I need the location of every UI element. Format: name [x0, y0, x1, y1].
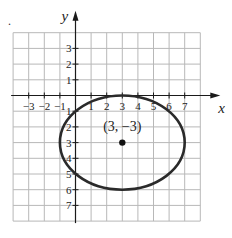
center-point-label: (3, −3): [103, 119, 142, 135]
y-tick-label: 6: [66, 184, 72, 196]
y-tick-label: 3: [66, 42, 72, 54]
annotations: (3, −3): [103, 119, 142, 146]
x-tick-label: −3: [23, 100, 35, 112]
coordinate-plane: xy −3−2−112345671231234567 (3, −3): [0, 0, 232, 238]
y-tick-label: 2: [66, 58, 72, 70]
y-tick-label: 3: [66, 137, 72, 149]
x-tick-label: 4: [135, 100, 141, 112]
y-tick-label: 1: [66, 74, 72, 86]
y-tick-label: 7: [66, 199, 72, 211]
x-axis-label: x: [217, 100, 225, 116]
y-axis-label: y: [60, 8, 69, 24]
center-point-dot: [119, 139, 125, 145]
x-tick-label: 7: [182, 100, 188, 112]
x-axis-arrow-icon: [210, 93, 220, 99]
x-tick-label: 3: [120, 100, 126, 112]
x-tick-label: 2: [104, 100, 110, 112]
y-axis-arrow-icon: [73, 11, 79, 21]
x-tick-label: −1: [54, 100, 66, 112]
x-tick-label: −2: [38, 100, 50, 112]
